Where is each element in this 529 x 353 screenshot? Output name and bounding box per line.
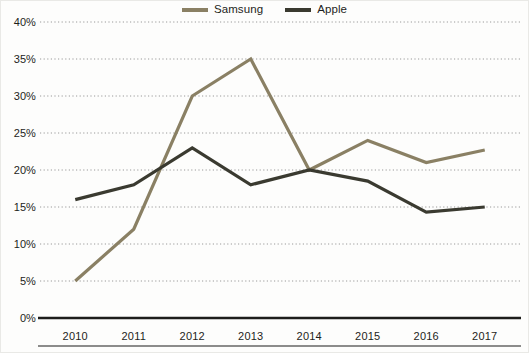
y-tick-label: 25% bbox=[4, 128, 36, 139]
x-tick-label: 2013 bbox=[238, 331, 263, 342]
axis-lines bbox=[38, 318, 521, 346]
y-tick-label: 5% bbox=[4, 276, 36, 287]
y-tick-label: 15% bbox=[4, 202, 36, 213]
y-tick-label: 10% bbox=[4, 239, 36, 250]
y-tick-label: 35% bbox=[4, 54, 36, 65]
data-series bbox=[75, 59, 485, 281]
series-line-samsung bbox=[75, 59, 485, 281]
x-tick-label: 2010 bbox=[63, 331, 88, 342]
x-tick-label: 2016 bbox=[414, 331, 439, 342]
x-tick-label: 2017 bbox=[472, 331, 497, 342]
plot-area bbox=[0, 0, 529, 353]
x-tick-label: 2015 bbox=[355, 331, 380, 342]
y-tick-label: 20% bbox=[4, 165, 36, 176]
series-line-apple bbox=[75, 148, 485, 212]
y-tick-label: 30% bbox=[4, 91, 36, 102]
y-tick-label: 40% bbox=[4, 17, 36, 28]
x-tick-label: 2014 bbox=[297, 331, 322, 342]
y-tick-label: 0% bbox=[4, 313, 36, 324]
x-tick-label: 2011 bbox=[122, 331, 146, 342]
chart-container: Samsung Apple 40%35%30%25%20%15%10%5%0% … bbox=[0, 0, 529, 353]
gridlines bbox=[40, 22, 521, 281]
x-tick-label: 2012 bbox=[180, 331, 205, 342]
